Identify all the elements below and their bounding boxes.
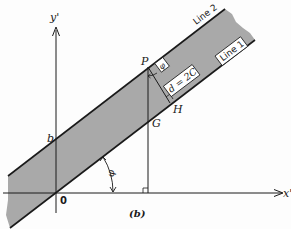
point-G-label: G xyxy=(152,117,161,130)
intercept-label-b: b xyxy=(47,132,54,145)
y-axis-label: y' xyxy=(49,11,59,24)
x-axis-label: x' xyxy=(283,187,291,200)
diagram-canvas: y' x' 0 b P G H (b) φ Line 2 Line 1 d = … xyxy=(0,0,291,229)
point-P-label: P xyxy=(140,55,149,68)
figure-caption: (b) xyxy=(129,208,146,219)
point-H-label: H xyxy=(172,103,183,116)
angle-phi-label: φ xyxy=(105,170,116,177)
diagram-svg: y' x' 0 b P G H (b) φ Line 2 Line 1 d = … xyxy=(0,0,291,229)
line-2 xyxy=(8,9,225,176)
shaded-band xyxy=(6,9,255,228)
right-angle-marker xyxy=(143,188,148,193)
origin-label: 0 xyxy=(60,195,67,206)
